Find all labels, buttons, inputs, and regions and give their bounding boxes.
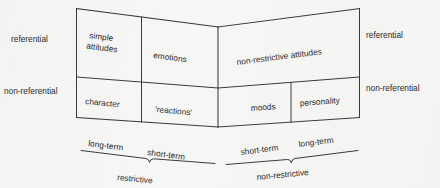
group-label-non-restrictive: non-restrictive xyxy=(256,167,309,182)
axis-label-right-long-term: long-term xyxy=(298,135,334,149)
left-panel-outline xyxy=(77,9,219,128)
side-label-right-referential: referential xyxy=(366,30,403,40)
cell-label-moods: moods xyxy=(250,101,276,113)
side-label-right-non-referential: non-referential xyxy=(366,83,420,93)
right-panel-outline xyxy=(218,9,360,128)
left-side-labels: referential non-referential xyxy=(4,34,58,96)
diagram-root: simple attitudes emotions character 'rea… xyxy=(0,0,440,188)
left-panel-bottom-edge xyxy=(77,118,219,128)
cell-label-reactions: 'reactions' xyxy=(155,104,193,117)
right-axis-group: short-term long-term non-restrictive xyxy=(226,135,358,182)
cell-label-non-restrictive-attitudes: non-restrictive attitudes xyxy=(236,46,322,67)
right-panel-bottom-edge xyxy=(218,118,360,128)
cell-label-simple-attitudes-line2: attitudes xyxy=(86,41,118,55)
left-panel-cell-labels: simple attitudes emotions character 'rea… xyxy=(85,30,193,117)
side-label-left-referential: referential xyxy=(11,34,48,44)
left-panel-top-edge xyxy=(77,9,219,28)
cell-label-character: character xyxy=(85,96,121,109)
cell-label-personality: personality xyxy=(299,95,341,108)
left-axis-group: long-term short-term restrictive xyxy=(81,138,215,185)
right-panel-top-edge xyxy=(218,9,360,28)
cell-label-emotions: emotions xyxy=(153,50,188,64)
axis-label-left-long-term: long-term xyxy=(88,138,124,152)
group-label-restrictive: restrictive xyxy=(117,172,154,185)
side-label-left-non-referential: non-referential xyxy=(4,86,58,96)
right-side-labels: referential non-referential xyxy=(366,30,420,93)
axis-label-right-short-term: short-term xyxy=(240,142,279,157)
typology-diagram: simple attitudes emotions character 'rea… xyxy=(0,0,440,188)
left-panel-mid-divider xyxy=(77,77,219,88)
right-panel-mid-divider xyxy=(218,77,360,88)
